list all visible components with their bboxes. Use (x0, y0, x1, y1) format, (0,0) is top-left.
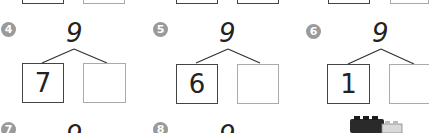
problem-number-badge: 7 (1, 122, 16, 133)
part-left-box: 1 (327, 64, 370, 104)
whole-number: 9 (219, 122, 236, 133)
block-toy-image (348, 115, 408, 133)
problem-6: 6 9 1 (286, 0, 429, 133)
problem-4: 4 9 7 7 9 (0, 0, 143, 133)
part-left-box: 6 (176, 64, 218, 104)
problem-5: 5 9 6 8 9 (143, 0, 286, 133)
number-bond-lines (286, 0, 429, 70)
part-left-box: 7 (22, 63, 64, 103)
whole-number: 9 (66, 122, 83, 133)
part-right-box[interactable] (237, 64, 279, 104)
part-right-box[interactable] (83, 63, 126, 103)
problem-number-badge: 8 (153, 122, 168, 133)
part-right-box[interactable] (389, 64, 429, 104)
number-bond-lines (0, 0, 143, 70)
number-bond-lines (143, 0, 286, 70)
